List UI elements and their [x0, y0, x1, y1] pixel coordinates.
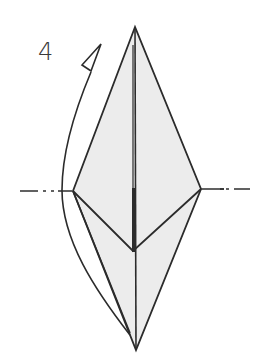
center-thick-layer — [132, 188, 136, 252]
step-number: 4 — [38, 40, 53, 64]
hollow-triangle-arrowhead-icon — [82, 44, 101, 71]
paper-diamond-fill — [73, 27, 201, 350]
